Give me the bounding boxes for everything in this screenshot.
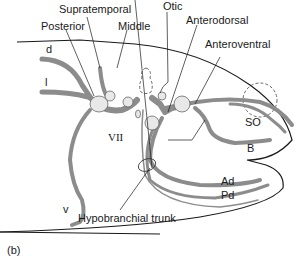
label-anteroventral: Anteroventral <box>205 38 270 50</box>
head-outline <box>0 40 292 234</box>
otic-capsule-dashed <box>140 68 153 94</box>
lateral-line-nerve-diagram: Supratemporal Posterior Middle Otic Ante… <box>0 0 297 258</box>
label-middle: Middle <box>118 20 150 32</box>
label-so: SO <box>245 116 261 128</box>
label-l: l <box>45 76 47 88</box>
otic-ganglion <box>158 92 166 100</box>
anterodorsal-ganglion <box>174 96 190 112</box>
panel-label: (b) <box>7 244 20 256</box>
label-posterior: Posterior <box>41 20 85 32</box>
nerves <box>42 59 292 225</box>
label-v: v <box>63 203 69 215</box>
label-b: B <box>247 142 254 154</box>
label-supratemporal: Supratemporal <box>59 3 131 15</box>
label-d: d <box>46 43 52 55</box>
middle-ganglion <box>123 97 133 107</box>
vii-small-ganglion <box>136 110 141 118</box>
label-hypobranchial-trunk: Hypobranchial trunk <box>78 212 176 224</box>
label-ad: Ad <box>221 175 234 187</box>
supratemporal-ganglion <box>105 91 115 101</box>
label-vii: VII <box>108 131 124 143</box>
label-anterodorsal: Anterodorsal <box>186 14 248 26</box>
label-pd: Pd <box>221 189 234 201</box>
label-otic: Otic <box>163 0 183 12</box>
